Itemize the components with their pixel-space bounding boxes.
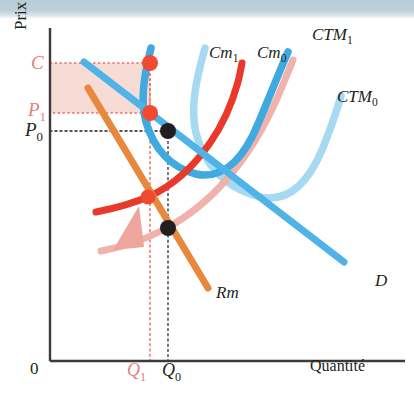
curve-label-Cm0-text: Cm [257, 43, 281, 62]
y-axis-label: Prix [12, 2, 29, 30]
cost-shift-arrow-icon [113, 206, 144, 250]
curve-label-CTM1-sub: 1 [347, 34, 353, 47]
origin-label: 0 [30, 360, 39, 377]
x-axis-label: Quantité [310, 358, 365, 374]
curve-label-D: D [375, 272, 387, 289]
y-tick-P0: P0 [25, 120, 43, 144]
point-Cm0-Rm [160, 220, 176, 236]
curve-CTM1 [143, 48, 288, 175]
curve-D [84, 62, 344, 262]
y-tick-C: C [31, 53, 44, 72]
curve-label-CTM1-text: CTM [312, 25, 347, 44]
curve-label-Rm: Rm [216, 284, 239, 301]
curve-label-Rm-text: Rm [216, 283, 239, 302]
curve-label-CTM0-sub: 0 [372, 96, 378, 109]
curve-label-CTM0: CTM0 [337, 88, 378, 109]
y-tick-C-text: C [31, 52, 44, 73]
curve-label-D-text: D [375, 271, 387, 290]
y-tick-P0-sub: 0 [37, 129, 43, 144]
curve-label-Cm1-text: Cm [209, 43, 233, 62]
curve-label-CTM1: CTM1 [312, 26, 353, 47]
x-tick-Q0: Q0 [162, 361, 181, 383]
point-C [142, 55, 158, 71]
x-tick-Q1: Q1 [127, 361, 146, 383]
curve-label-CTM0-text: CTM [337, 87, 372, 106]
x-tick-Q1-text: Q [127, 360, 140, 380]
curve-label-Cm0-sub: 0 [281, 52, 287, 65]
curve-label-Cm1: Cm1 [209, 44, 238, 65]
plot-canvas [0, 0, 414, 403]
point-P0 [160, 123, 176, 139]
x-tick-Q0-text: Q [162, 360, 175, 380]
point-P1 [142, 105, 158, 121]
curve-label-Cm0: Cm0 [257, 44, 286, 65]
y-tick-P0-text: P [25, 119, 37, 140]
curve-label-Cm1-sub: 1 [233, 52, 239, 65]
y-tick-P1-text: P [28, 99, 40, 120]
x-tick-Q1-sub: 1 [140, 370, 146, 384]
x-tick-Q0-sub: 0 [175, 370, 181, 384]
economics-diagram-figure: Prix Quantité 0 C P1 P0 Q1 Q0 CTM1 CTM0 … [0, 0, 414, 403]
point-Cm1-Rm [141, 190, 156, 205]
